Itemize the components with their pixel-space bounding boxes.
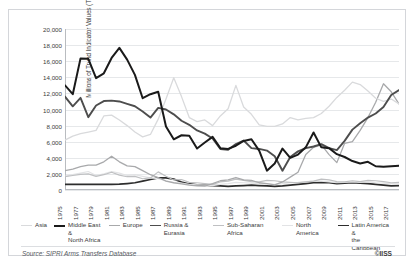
x-tick-label: 1975 bbox=[56, 206, 63, 220]
legend-swatch-icon bbox=[54, 225, 65, 227]
legend-label: Middle East & North Africa bbox=[68, 221, 102, 244]
legend-swatch-icon bbox=[109, 225, 120, 226]
y-tick-label: 2,000 bbox=[28, 170, 62, 177]
y-tick-label: 4,000 bbox=[28, 154, 62, 161]
legend-item-russia-eurasia[interactable]: Russia & Eurasia bbox=[150, 221, 206, 236]
footer-divider bbox=[21, 246, 395, 247]
chart-legend: AsiaMiddle East & North AfricaEuropeRuss… bbox=[21, 221, 397, 243]
y-tick-label: 14,000 bbox=[28, 74, 62, 81]
y-tick-label: 6,000 bbox=[28, 138, 62, 145]
x-tick-label: 1999 bbox=[242, 206, 249, 220]
legend-item-asia[interactable]: Asia bbox=[21, 221, 47, 229]
y-tick-label: 20,000 bbox=[28, 26, 62, 33]
x-tick-label: 1993 bbox=[196, 206, 203, 220]
x-tick-label: 2011 bbox=[336, 207, 343, 220]
source-note: Source: SIPRI Arms Transfers Database bbox=[22, 250, 136, 257]
legend-label: North America bbox=[296, 221, 331, 236]
legend-swatch-icon bbox=[21, 225, 32, 226]
legend-swatch-icon bbox=[213, 225, 224, 226]
x-tick-label: 2007 bbox=[305, 206, 312, 220]
x-tick-label: 1979 bbox=[87, 206, 94, 220]
x-tick-label: 1991 bbox=[180, 206, 187, 220]
x-tick-label: 1977 bbox=[72, 206, 79, 220]
x-tick-label: 1989 bbox=[165, 206, 172, 220]
legend-swatch-icon bbox=[338, 225, 349, 226]
series-lines bbox=[65, 29, 399, 190]
copyright-label: ©IISS bbox=[375, 250, 392, 257]
y-tick-label: 8,000 bbox=[28, 122, 62, 129]
legend-label: Asia bbox=[35, 221, 47, 229]
plot-area: Millions of Trend Indicator Values (TIV)… bbox=[65, 29, 399, 190]
y-tick-label: 12,000 bbox=[28, 90, 62, 97]
x-tick-label: 1995 bbox=[211, 206, 218, 220]
legend-item-middle-east-north-africa[interactable]: Middle East & North Africa bbox=[54, 221, 102, 244]
legend-swatch-icon bbox=[150, 225, 161, 226]
x-tick-label: 1981 bbox=[103, 206, 110, 220]
x-tick-label: 2015 bbox=[367, 206, 374, 220]
series-line-middle-east-north-africa bbox=[65, 48, 399, 171]
x-tick-label: 2009 bbox=[320, 206, 327, 220]
legend-item-sub-saharan-africa[interactable]: Sub-Saharan Africa bbox=[213, 221, 275, 236]
x-tick-label: 2005 bbox=[289, 206, 296, 220]
x-tick-label: 2003 bbox=[273, 206, 280, 220]
x-tick-label: 2017 bbox=[382, 206, 389, 220]
legend-label: Russia & Eurasia bbox=[164, 221, 206, 236]
y-tick-label: 16,000 bbox=[28, 58, 62, 65]
legend-label: Sub-Saharan Africa bbox=[227, 221, 275, 236]
x-tick-label: 1983 bbox=[118, 206, 125, 220]
y-tick-label: 0 bbox=[28, 187, 62, 194]
gridline bbox=[65, 190, 399, 191]
legend-label: Europe bbox=[123, 221, 143, 229]
y-tick-label: 18,000 bbox=[28, 42, 62, 49]
x-tick-label: 2013 bbox=[351, 206, 358, 220]
chart-figure: Millions of Trend Indicator Values (TIV)… bbox=[0, 0, 414, 265]
legend-item-north-america[interactable]: North America bbox=[282, 221, 331, 236]
x-tick-label: 1987 bbox=[149, 206, 156, 220]
chart-card: Millions of Trend Indicator Values (TIV)… bbox=[8, 9, 406, 256]
x-tick-label: 2001 bbox=[258, 206, 265, 220]
legend-swatch-icon bbox=[282, 225, 293, 226]
series-line-asia bbox=[65, 78, 399, 140]
cropped-title-strip bbox=[0, 0, 414, 9]
x-tick-label: 1997 bbox=[227, 206, 234, 220]
x-tick-label: 1985 bbox=[134, 206, 141, 220]
legend-item-europe[interactable]: Europe bbox=[109, 221, 143, 229]
y-tick-label: 10,000 bbox=[28, 106, 62, 113]
x-axis-ticks: 1975197719791981198319851987198919911993… bbox=[65, 192, 399, 220]
